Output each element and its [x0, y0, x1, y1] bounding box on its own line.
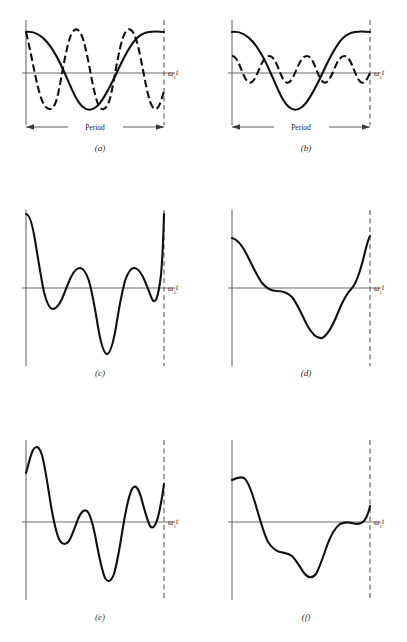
panel-d-caption: (d): [301, 368, 312, 378]
panel-b-omega-symbol: ω: [374, 69, 379, 78]
panel-c-omega-symbol: ω: [168, 284, 173, 293]
panel-a-omega-symbol: ω: [168, 69, 173, 78]
panel-a-period-label: Period: [85, 123, 105, 132]
panel-b-period-label: Period: [291, 123, 311, 132]
panel-d-omega-symbol: ω: [374, 284, 379, 293]
waveform-figure: Period ω 1 t (a) Period ω 1 t (b): [0, 0, 407, 642]
panel-b-caption: (b): [301, 143, 312, 153]
panel-e-caption: (e): [95, 612, 105, 622]
panel-f-omega-symbol: ω: [374, 518, 379, 527]
panel-e-omega-symbol: ω: [168, 518, 173, 527]
figure-background: [0, 0, 407, 642]
panel-f-caption: (f): [302, 612, 311, 622]
panel-a-caption: (a): [95, 143, 106, 153]
panel-c-caption: (c): [95, 368, 105, 378]
